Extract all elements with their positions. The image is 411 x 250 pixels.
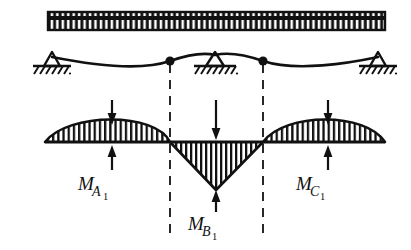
elastic-curve	[52, 54, 378, 67]
label-MB1-subsub: 1	[212, 231, 217, 242]
annotation-MA1-label: M A 1	[77, 173, 108, 202]
label-MA1-subsub: 1	[103, 191, 108, 202]
support-middle	[194, 52, 238, 75]
load-bar-hatching	[48, 12, 385, 30]
uniform-distributed-load	[48, 12, 385, 30]
beam-moment-figure: M A 1 M B 1 M C 1	[0, 0, 411, 250]
annotation-MC1-label: M C 1	[295, 173, 325, 202]
support-middle-ground-dot	[236, 72, 238, 74]
label-MC1-sub: C	[310, 184, 320, 199]
arrow-up-MA1-head	[108, 145, 117, 157]
annotation-MB1-label: M B 1	[187, 213, 217, 242]
arrow-up-MC1-head	[324, 145, 333, 157]
negative-moment-over-B	[170, 142, 264, 192]
support-left	[33, 52, 71, 75]
arrow-up-MB1-head	[212, 190, 221, 202]
label-MC1-subsub: 1	[320, 191, 325, 202]
label-MB1-sub: B	[202, 224, 211, 239]
label-MA1-sub: A	[91, 184, 101, 199]
deflected-beam-group	[33, 52, 397, 75]
support-right-ground-dot	[395, 72, 397, 74]
figure-canvas: M A 1 M B 1 M C 1	[0, 0, 411, 250]
support-left-ground-dot	[69, 72, 71, 74]
arrow-down-MB1-head	[212, 128, 221, 140]
support-right	[359, 52, 397, 75]
moment-region-middle-hatch	[170, 142, 264, 192]
